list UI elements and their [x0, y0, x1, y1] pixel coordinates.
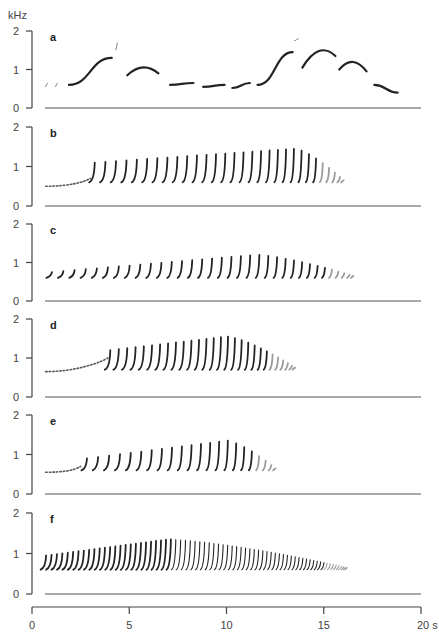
panel-d: 210d	[13, 313, 421, 403]
y-axis-unit-label: kHz	[8, 9, 27, 21]
song-notes	[46, 149, 344, 186]
y-tick-label: 2	[13, 507, 19, 519]
spectrogram-figure: kHz 210a210b210c210d210e210f 05101520 s	[0, 0, 439, 643]
time-axis: 05101520 s	[29, 607, 438, 631]
y-tick-label: 0	[13, 588, 19, 600]
panel-label: e	[50, 415, 56, 427]
panel-e: 210e	[13, 409, 421, 500]
song-notes	[46, 39, 398, 93]
panel-label: a	[50, 31, 57, 43]
y-tick-label: 1	[13, 449, 19, 461]
x-tick-label: 0	[29, 619, 35, 631]
panels: 210a210b210c210d210e210f	[13, 25, 421, 600]
y-tick-label: 0	[13, 488, 19, 500]
y-tick-label: 1	[13, 64, 19, 76]
y-tick-label: 1	[13, 548, 19, 560]
y-tick-label: 2	[13, 409, 19, 421]
song-notes	[41, 539, 348, 569]
panel-c: 210c	[13, 218, 421, 307]
x-tick-label: 5	[126, 619, 132, 631]
panel-label: f	[50, 513, 54, 525]
y-tick-label: 2	[13, 313, 19, 325]
panel-label: b	[50, 127, 57, 139]
panel-label: d	[50, 319, 57, 331]
y-tick-label: 2	[13, 121, 19, 133]
panel-label: c	[50, 224, 56, 236]
y-tick-label: 0	[13, 200, 19, 212]
song-notes	[46, 337, 295, 372]
panel-f: 210f	[13, 507, 421, 600]
y-tick-label: 0	[13, 102, 19, 114]
song-notes	[46, 255, 353, 278]
song-notes	[46, 441, 276, 473]
x-tick-label: 10	[220, 619, 232, 631]
x-tick-label: 20 s	[417, 619, 438, 631]
x-tick-label: 15	[318, 619, 330, 631]
panel-b: 210b	[13, 121, 421, 212]
y-tick-label: 2	[13, 25, 19, 37]
y-tick-label: 1	[13, 257, 19, 269]
y-tick-label: 1	[13, 161, 19, 173]
y-tick-label: 2	[13, 218, 19, 230]
panel-a: 210a	[13, 25, 421, 114]
y-tick-label: 0	[13, 295, 19, 307]
y-tick-label: 1	[13, 352, 19, 364]
y-tick-label: 0	[13, 391, 19, 403]
